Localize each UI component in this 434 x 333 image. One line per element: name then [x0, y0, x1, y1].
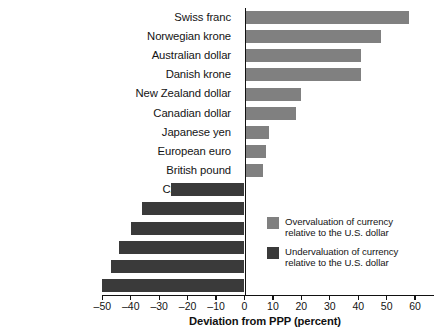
legend-item-undervaluation: Undervaluation of currency relative to t…: [267, 246, 398, 269]
x-tick-label: 10: [267, 301, 279, 312]
bar: [245, 164, 263, 177]
x-tick-label: 30: [324, 301, 336, 312]
bar: [245, 11, 410, 24]
bar: [119, 241, 244, 254]
x-axis-title: Deviation from PPP (percent): [0, 315, 434, 327]
bar: [245, 145, 266, 158]
legend-swatch-overvaluation-icon: [267, 217, 279, 229]
zero-baseline-axis: [245, 8, 246, 295]
bar: [111, 260, 245, 273]
bar: [171, 183, 245, 196]
x-tick-label: –10: [207, 301, 225, 312]
legend-label-overvaluation: Overvaluation of currency relative to th…: [285, 216, 393, 239]
bar: [131, 222, 245, 235]
chart-legend: Overvaluation of currency relative to th…: [267, 216, 398, 276]
bar: [245, 68, 362, 81]
x-axis-line: [103, 295, 434, 296]
x-tick-label: –40: [122, 301, 140, 312]
bar: [245, 49, 362, 62]
legend-swatch-undervaluation-icon: [267, 247, 279, 259]
legend-label-undervaluation: Undervaluation of currency relative to t…: [285, 246, 398, 269]
legend-item-overvaluation: Overvaluation of currency relative to th…: [267, 216, 398, 239]
x-tick-label: –50: [94, 301, 112, 312]
x-tick-label: 20: [296, 301, 308, 312]
bar: [142, 202, 244, 215]
x-tick-label: –20: [179, 301, 197, 312]
bar: [245, 107, 296, 120]
x-tick-label: –30: [150, 301, 168, 312]
x-tick-label: 50: [381, 301, 393, 312]
x-tick-label: 60: [409, 301, 421, 312]
bar: [245, 30, 381, 43]
ppp-deviation-bar-chart: Swiss francNorwegian kroneAustralian dol…: [0, 0, 434, 333]
bar: [245, 88, 302, 101]
bar: [102, 279, 244, 292]
x-tick-label: 40: [352, 301, 364, 312]
x-tick-label: 0: [242, 301, 248, 312]
bar: [245, 126, 269, 139]
